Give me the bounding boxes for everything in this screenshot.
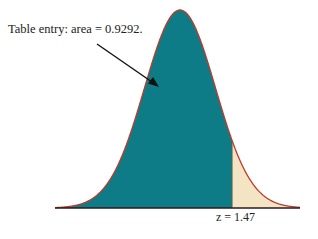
z-value-label: z = 1.47	[216, 210, 255, 225]
shaded-left-area	[55, 10, 232, 208]
table-entry-annotation: Table entry: area = 0.9292.	[8, 22, 143, 37]
annotation-arrow	[97, 44, 152, 82]
